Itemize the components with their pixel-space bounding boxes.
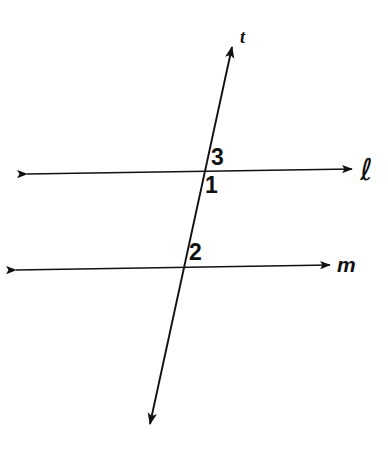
figure-canvas bbox=[0, 0, 388, 449]
line-t-stroke bbox=[150, 47, 232, 424]
line-label-t: t bbox=[240, 28, 245, 46]
angle-label-1: 1 bbox=[205, 174, 217, 197]
angle-label-3: 3 bbox=[211, 146, 223, 169]
angle-label-2: 2 bbox=[189, 241, 201, 264]
line-label-l: ℓ bbox=[360, 155, 372, 185]
geometry-figure: t ℓ m 3 1 2 bbox=[0, 0, 388, 449]
line-l-stroke bbox=[27, 169, 352, 174]
line-label-m: m bbox=[337, 254, 356, 275]
line-m-stroke bbox=[16, 265, 330, 270]
